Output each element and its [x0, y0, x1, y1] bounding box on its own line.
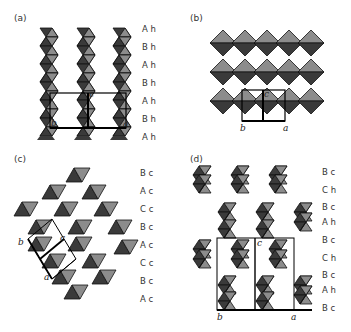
- axis-label-c: c: [89, 89, 94, 99]
- axis-label-a: a: [123, 119, 128, 129]
- octahedral-column: [74, 28, 95, 140]
- axis-label-b: b: [240, 123, 246, 133]
- axis-label-c: c: [60, 233, 65, 243]
- figure-graphics: b c a b c a b c a: [0, 0, 351, 332]
- panel-b-structure: b c a: [210, 30, 324, 133]
- axis-label-b: b: [217, 312, 223, 322]
- axis-label-a: a: [44, 272, 49, 282]
- axis-label-b: b: [51, 118, 57, 128]
- axis-label-c: c: [264, 89, 269, 99]
- axis-label-a: a: [291, 312, 296, 322]
- panel-c-structure: b c a: [14, 168, 138, 299]
- panel-a-structure: b c a: [37, 28, 131, 140]
- panel-d-structure: b c a: [193, 166, 312, 322]
- axis-label-b: b: [18, 237, 24, 247]
- axis-label-a: a: [283, 123, 288, 133]
- axis-label-c: c: [257, 238, 262, 248]
